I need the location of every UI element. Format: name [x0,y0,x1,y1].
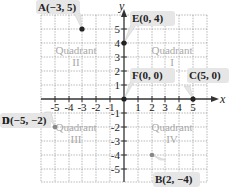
point-c [190,96,195,101]
cropped-side-text: n [2,112,9,128]
y-tick-label: -5 [111,163,121,175]
y-tick-label: -4 [111,149,121,161]
y-tick-label: -2 [111,121,120,133]
x-axis-arrow-icon [211,96,219,102]
quadrant-3-label: Quadrant [56,121,97,133]
y-axis-label: y [118,0,125,13]
y-tick-label: 2 [115,65,121,77]
x-tick-label: 5 [190,101,196,113]
x-tick-label: 3 [162,101,168,113]
x-axis-label: x [219,92,226,106]
quadrant-1-label: Quadrant [152,44,193,56]
point-c-label: C(5, 0) [189,69,221,82]
y-tick-label: 1 [115,79,121,91]
y-tick-label: -3 [111,135,121,147]
quadrant-2-numeral: II [72,56,80,68]
point-f-label: F(0, 0) [132,69,163,82]
quadrant-1-numeral: I [170,56,174,68]
point-a-label: A(−3, 5) [38,1,76,14]
quadrant-2-label: Quadrant [56,44,97,56]
point-e [121,40,126,45]
x-tick-label: 2 [149,101,155,113]
x-tick-label: -5 [50,101,60,113]
point-d [53,125,58,130]
y-tick-label: 5 [115,23,121,35]
point-a [79,26,84,31]
x-tick-label: 4 [176,101,182,113]
x-tick-label: 1 [135,101,141,113]
coordinate-plane: Quadrant I Quadrant II Quadrant III Quad… [0,0,229,196]
y-tick-label: 4 [115,37,121,49]
axes [41,14,214,182]
y-tick-label: -1 [111,107,120,119]
x-tick-label: -4 [64,101,74,113]
quadrant-3-numeral: III [71,133,82,145]
point-f [121,96,126,101]
point-e-label: E(0, 4) [132,12,164,25]
point-b-label: B(2, −4) [155,173,193,186]
x-tick-label: -3 [77,101,87,113]
point-b [150,153,155,158]
x-tick-label: -2 [91,101,100,113]
quadrant-4-label: Quadrant [152,121,193,133]
quadrant-4-numeral: IV [166,133,178,145]
y-tick-label: 3 [115,51,121,63]
coordinate-plane-figure: n [0,0,229,196]
